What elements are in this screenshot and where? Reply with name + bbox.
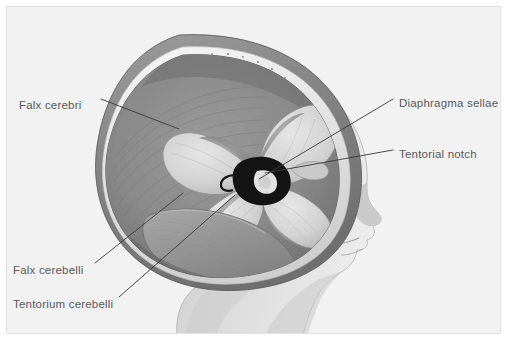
label-diaphragma-sellae: Diaphragma sellae bbox=[399, 98, 498, 110]
label-tentorial-notch: Tentorial notch bbox=[399, 149, 477, 161]
illustration-panel: Falx cerebri Diaphragma sellae Tentorial… bbox=[6, 6, 501, 334]
figure-root: Falx cerebri Diaphragma sellae Tentorial… bbox=[0, 0, 507, 345]
label-tentorium-cerebelli: Tentorium cerebelli bbox=[13, 299, 113, 311]
label-falx-cerebelli: Falx cerebelli bbox=[13, 265, 84, 277]
anatomy-illustration bbox=[7, 7, 501, 334]
label-falx-cerebri: Falx cerebri bbox=[19, 100, 81, 112]
